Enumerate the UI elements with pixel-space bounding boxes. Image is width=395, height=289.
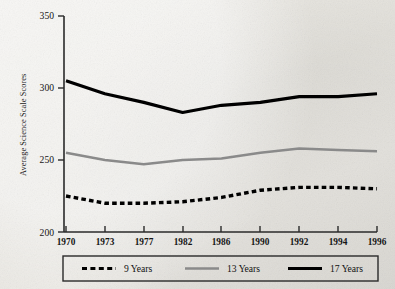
y-tick-label: 250: [40, 154, 55, 165]
x-tick-label: 1990: [251, 237, 270, 247]
x-tick-label: 1994: [329, 237, 348, 247]
y-axis-tick-labels: 350 300 250 200: [40, 10, 55, 238]
chart-legend: 9 Years 13 Years 17 Years: [63, 256, 378, 281]
legend-label-13-years: 13 Years: [227, 263, 260, 274]
series-line-13-years: [66, 148, 377, 164]
chart-svg: Average Science Scale Scores 350 300 250…: [0, 0, 395, 289]
y-tick-label: 300: [40, 82, 55, 93]
x-tick-label: 1986: [212, 237, 231, 247]
x-tick-label: 1970: [57, 237, 76, 247]
series-line-9-years: [66, 187, 377, 203]
x-tick-label: 1977: [135, 237, 154, 247]
x-tick-label: 1996: [368, 237, 387, 247]
data-series-layer: [66, 81, 377, 203]
y-axis-title: Average Science Scale Scores: [19, 74, 28, 176]
x-tick-label: 1973: [96, 237, 115, 247]
y-tick-label: 200: [40, 227, 55, 238]
x-tick-label: 1982: [174, 237, 193, 247]
x-axis-tick-labels: 1970 1973 1977 1982 1986 1990 1992 1994 …: [57, 237, 387, 247]
science-scores-line-chart: Average Science Scale Scores 350 300 250…: [0, 0, 395, 289]
y-tick-label: 350: [40, 10, 55, 21]
legend-label-17-years: 17 Years: [330, 263, 363, 274]
legend-label-9-years: 9 Years: [124, 263, 153, 274]
x-tick-label: 1992: [290, 237, 309, 247]
chart-axes: [58, 16, 377, 232]
series-line-17-years: [66, 81, 377, 113]
